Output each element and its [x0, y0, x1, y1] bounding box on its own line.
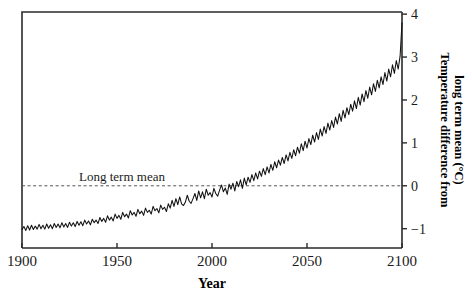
annotation-long-term-mean: Long term mean [79, 169, 165, 184]
x-tick-label: 2050 [292, 253, 322, 269]
chart-annotations: Long term mean [79, 169, 165, 184]
y-tick-label: 2 [411, 93, 418, 108]
x-tick-label: 1950 [102, 253, 132, 269]
axis-frame [22, 12, 402, 248]
y-tick-label: 4 [411, 7, 418, 22]
x-axis-title: Year [198, 276, 226, 291]
y-axis-title-line-1: Temperature difference from [438, 52, 452, 208]
temperature-anomaly-line [22, 23, 402, 231]
x-tick-label: 2100 [387, 253, 417, 269]
y-tick-label: 1 [411, 136, 418, 151]
x-axis-ticks: 19001950200020502100 [7, 243, 417, 269]
plot-frame [22, 12, 402, 248]
y-tick-label: 0 [411, 179, 418, 194]
data-series-group [22, 23, 402, 231]
y-axis-title-group: Temperature difference from long term me… [438, 52, 466, 208]
x-tick-label: 2000 [197, 253, 227, 269]
y-tick-label: −1 [411, 222, 426, 237]
y-axis-ticks: −101234 [402, 7, 426, 237]
temperature-anomaly-figure: 19001950200020502100 −101234 Long term m… [0, 0, 472, 295]
y-axis-title-line-2: long term mean (°C) [452, 75, 466, 185]
x-tick-label: 1900 [7, 253, 37, 269]
y-tick-label: 3 [411, 50, 418, 65]
chart-canvas: 19001950200020502100 −101234 Long term m… [0, 0, 472, 295]
